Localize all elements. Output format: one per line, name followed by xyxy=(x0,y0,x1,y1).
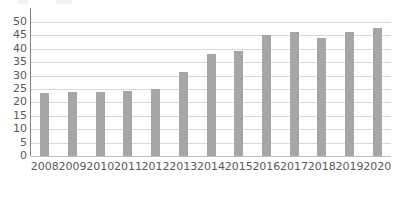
bar xyxy=(345,32,354,156)
y-tick-label: 45 xyxy=(1,29,27,40)
y-tick-label: 0 xyxy=(1,150,27,161)
y-tick-label: 50 xyxy=(1,16,27,27)
bar-chart: 05101520253035404550 2008200920102011201… xyxy=(0,0,395,203)
bar xyxy=(290,32,299,156)
y-tick-label: 30 xyxy=(1,70,27,81)
bar xyxy=(179,72,188,156)
bar xyxy=(123,91,132,156)
bar xyxy=(207,54,216,156)
y-tick-label: 5 xyxy=(1,137,27,148)
bar xyxy=(373,28,382,156)
y-axis-labels: 05101520253035404550 xyxy=(0,0,27,203)
y-tick-label: 10 xyxy=(1,123,27,134)
bar xyxy=(40,93,49,156)
y-tick-label: 40 xyxy=(1,43,27,54)
bar xyxy=(262,35,271,156)
x-tick-label: 2020 xyxy=(360,160,394,173)
y-tick-label: 25 xyxy=(1,83,27,94)
bar xyxy=(151,89,160,156)
bar xyxy=(317,38,326,156)
bar xyxy=(68,92,77,156)
bar xyxy=(96,92,105,156)
y-tick-label: 15 xyxy=(1,110,27,121)
x-axis-labels: 2008200920102011201220132014201520162017… xyxy=(31,160,391,180)
bar xyxy=(234,51,243,156)
y-tick-label: 20 xyxy=(1,96,27,107)
y-tick-label: 35 xyxy=(1,56,27,67)
